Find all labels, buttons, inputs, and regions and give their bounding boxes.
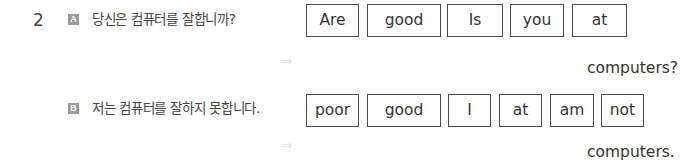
answer-suffix-a: computers?	[587, 58, 678, 78]
question-number: 2	[33, 8, 44, 32]
double-arrow-right-icon: ⇒	[282, 54, 292, 68]
speaker-badge-b: B	[68, 103, 79, 114]
word-box[interactable]: you	[510, 4, 564, 37]
prompt-b-korean: 저는 컴퓨터를 잘하지 못합니다.	[92, 98, 260, 118]
double-arrow-right-icon: ⇒	[282, 138, 292, 152]
word-box[interactable]: poor	[306, 94, 359, 127]
word-box[interactable]: good	[367, 94, 441, 127]
prompt-a-korean: 당신은 컴퓨터를 잘합니까?	[92, 9, 236, 29]
word-box[interactable]: good	[367, 4, 441, 37]
word-box[interactable]: at	[499, 94, 542, 127]
word-box[interactable]: at	[572, 4, 627, 37]
word-box[interactable]: not	[601, 94, 644, 127]
word-box[interactable]: Is	[447, 4, 503, 37]
answer-suffix-b: computers.	[587, 142, 675, 162]
word-box[interactable]: Are	[306, 4, 359, 37]
word-box[interactable]: I	[448, 94, 491, 127]
speaker-badge-a: A	[68, 14, 79, 25]
word-box[interactable]: am	[550, 94, 594, 127]
